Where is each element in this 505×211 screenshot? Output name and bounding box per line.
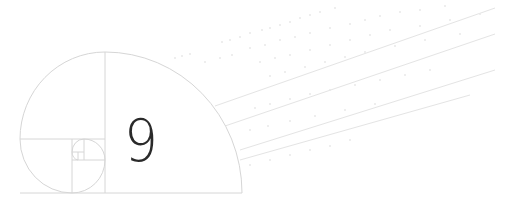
number-label: 9 <box>124 112 158 170</box>
golden-spiral-graphic <box>0 0 505 211</box>
